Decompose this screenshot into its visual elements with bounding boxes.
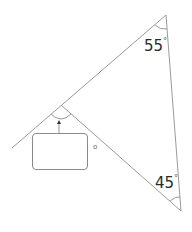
answer-input-box[interactable] — [32, 133, 88, 170]
angle-label-bottom: 45° — [155, 176, 178, 191]
exterior-angle-arc — [51, 114, 71, 119]
angle-label-top: 55° — [144, 39, 167, 54]
triangle-figure — [0, 0, 192, 232]
top-angle-arc — [155, 25, 167, 29]
degree-mark: o — [93, 143, 97, 151]
left-extended-side — [12, 15, 166, 148]
bottom-angle-arc — [170, 197, 180, 201]
pointer-arrow-icon — [57, 120, 61, 124]
